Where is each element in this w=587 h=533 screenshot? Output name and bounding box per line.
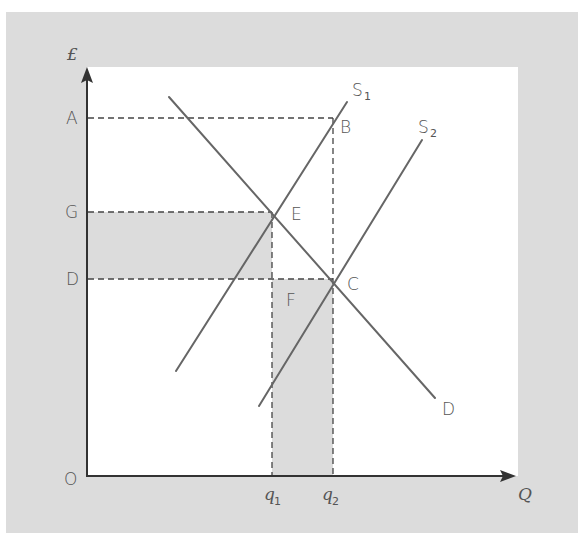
- svg-text:2: 2: [332, 495, 339, 508]
- price-label-a: A: [66, 108, 78, 128]
- y-axis-label: £: [66, 44, 78, 64]
- price-label-d: D: [66, 269, 79, 289]
- shaded-region-fq1q2c: [272, 279, 333, 476]
- svg-text:1: 1: [364, 90, 371, 103]
- origin-label: O: [64, 469, 77, 489]
- x-axis-label: Q: [518, 484, 532, 504]
- svg-text:1: 1: [274, 495, 281, 508]
- curve-label-d: D: [442, 399, 455, 419]
- shaded-region-gefd: [87, 212, 272, 279]
- svg-text:S: S: [352, 80, 363, 100]
- supply-demand-diagram: £ Q O A G D q 1 q 2 S 1 S 2 D B E C F: [0, 0, 587, 533]
- point-label-f: F: [286, 290, 296, 310]
- point-label-b: B: [340, 117, 351, 137]
- price-label-g: G: [65, 202, 78, 222]
- point-label-e: E: [291, 204, 302, 224]
- svg-text:S: S: [418, 117, 429, 137]
- point-label-c: C: [347, 274, 359, 294]
- svg-text:2: 2: [430, 127, 437, 140]
